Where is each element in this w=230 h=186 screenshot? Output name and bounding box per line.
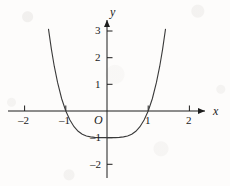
x-tick-label--2: –2 bbox=[18, 115, 29, 126]
x-tick-label--1: –1 bbox=[59, 115, 70, 126]
x-tick-label-1: 1 bbox=[145, 115, 151, 126]
y-tick-label-2: 2 bbox=[95, 52, 101, 63]
origin-label: O bbox=[94, 114, 103, 126]
x-tick-label-2: 2 bbox=[186, 115, 192, 126]
y-axis-label: y bbox=[110, 6, 115, 18]
y-axis-arrow-icon bbox=[104, 20, 110, 27]
x-axis-arrow-icon bbox=[198, 108, 205, 114]
coordinate-plot bbox=[0, 0, 230, 186]
x-axis-label: x bbox=[213, 105, 218, 117]
y-tick-label-3: 3 bbox=[95, 25, 101, 36]
y-tick-label-1: 1 bbox=[95, 79, 101, 90]
math-figure: –2 –1 1 2 1 2 3 –1 –2 O x y bbox=[0, 0, 230, 186]
y-tick-label--1: –1 bbox=[90, 132, 101, 143]
y-tick-label--2: –2 bbox=[90, 159, 101, 170]
